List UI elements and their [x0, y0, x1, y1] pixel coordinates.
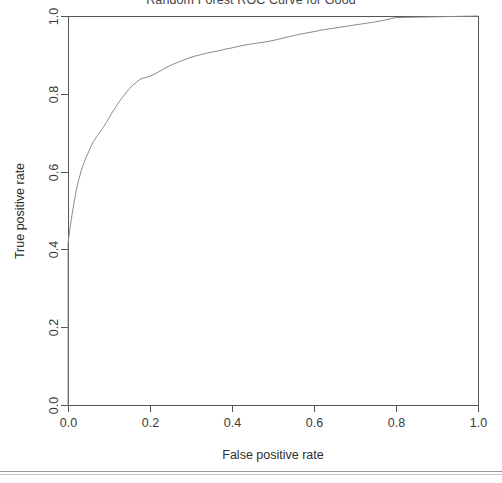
y-axis-tick-labels: 0.00.20.40.60.81.0	[47, 8, 61, 414]
footer-divider-secondary	[0, 474, 502, 475]
plot-frame	[69, 17, 479, 406]
x-axis-tick-labels: 0.00.20.40.60.81.0	[60, 416, 487, 430]
x-tick-label: 0.4	[224, 416, 241, 430]
plot-frame-group	[69, 17, 479, 406]
chart-canvas: 0.00.20.40.60.81.0 0.00.20.40.60.81.0 Fa…	[0, 0, 502, 483]
roc-curve-line	[68, 16, 478, 405]
footer-divider	[0, 471, 502, 472]
y-tick-label: 0.8	[47, 86, 61, 103]
y-tick-label: 0.0	[47, 397, 61, 414]
roc-plot-figure: Random Forest ROC Curve for Good 0.00.20…	[0, 0, 502, 483]
y-tick-label: 0.6	[47, 164, 61, 181]
y-tick-label: 0.4	[47, 241, 61, 258]
y-axis-ticks	[61, 17, 68, 406]
data-series-group	[68, 16, 478, 405]
x-axis-ticks	[69, 405, 479, 412]
y-tick-label: 0.2	[47, 319, 61, 336]
y-tick-label: 1.0	[47, 8, 61, 25]
x-tick-label: 0.6	[306, 416, 323, 430]
x-axis-title: False positive rate	[222, 448, 323, 462]
x-tick-label: 1.0	[470, 416, 487, 430]
x-tick-label: 0.2	[142, 416, 159, 430]
chart-title: Random Forest ROC Curve for Good	[0, 0, 502, 7]
x-tick-label: 0.8	[388, 416, 405, 430]
x-tick-label: 0.0	[60, 416, 77, 430]
y-axis-title: True positive rate	[13, 163, 27, 259]
